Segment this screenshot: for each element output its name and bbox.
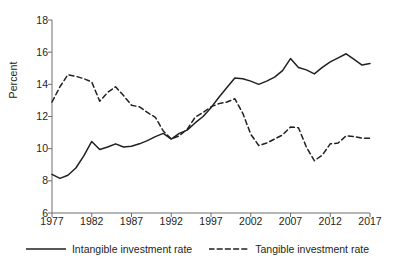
series-line-tangible bbox=[52, 75, 370, 161]
y-tick-label: 8 bbox=[26, 175, 48, 186]
line-chart: Percent 181614121086 1977198219871992199… bbox=[0, 0, 395, 270]
x-tick-label: 2017 bbox=[350, 216, 390, 227]
y-axis-title: Percent bbox=[7, 40, 19, 120]
x-tick-label: 2002 bbox=[231, 216, 271, 227]
axis-lines bbox=[52, 20, 370, 213]
legend-label: Tangible investment rate bbox=[255, 244, 369, 255]
legend-swatch-dashed bbox=[209, 244, 249, 254]
x-tick-label: 1977 bbox=[32, 216, 72, 227]
legend-item[interactable]: Tangible investment rate bbox=[209, 244, 369, 255]
chart-legend: Intangible investment rateTangible inves… bbox=[0, 244, 395, 255]
y-tick-label: 18 bbox=[26, 15, 48, 26]
y-tick-label: 10 bbox=[26, 143, 48, 154]
legend-item[interactable]: Intangible investment rate bbox=[26, 244, 192, 255]
legend-swatch-solid bbox=[26, 244, 66, 254]
plot-area bbox=[0, 0, 395, 270]
x-tick-label: 1987 bbox=[112, 216, 152, 227]
y-tick-label: 12 bbox=[26, 111, 48, 122]
legend-label: Intangible investment rate bbox=[72, 244, 192, 255]
x-tick-label: 2007 bbox=[271, 216, 311, 227]
y-tick-label: 14 bbox=[26, 79, 48, 90]
tick-marks bbox=[48, 20, 370, 217]
x-tick-label: 2012 bbox=[310, 216, 350, 227]
data-series bbox=[52, 54, 370, 179]
x-tick-label: 1982 bbox=[72, 216, 112, 227]
x-tick-label: 1997 bbox=[191, 216, 231, 227]
series-line-intangible bbox=[52, 54, 370, 179]
x-tick-label: 1992 bbox=[151, 216, 191, 227]
y-tick-label: 16 bbox=[26, 47, 48, 58]
